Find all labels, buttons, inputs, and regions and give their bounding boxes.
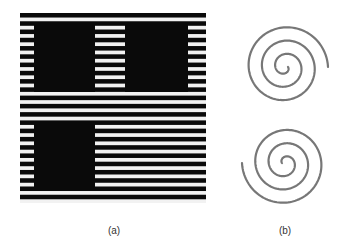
caption-a: (a)	[94, 225, 134, 236]
black-square-top-right	[125, 24, 188, 92]
black-square-bottom-left	[34, 121, 95, 187]
panel-b-double-spiral	[240, 20, 340, 210]
panel-a-stripe-figure	[20, 13, 206, 203]
black-square-top-left	[34, 24, 95, 92]
double-spiral-illustration	[240, 20, 340, 210]
stripe-grating-illustration	[20, 13, 206, 203]
caption-b: (b)	[265, 225, 305, 236]
